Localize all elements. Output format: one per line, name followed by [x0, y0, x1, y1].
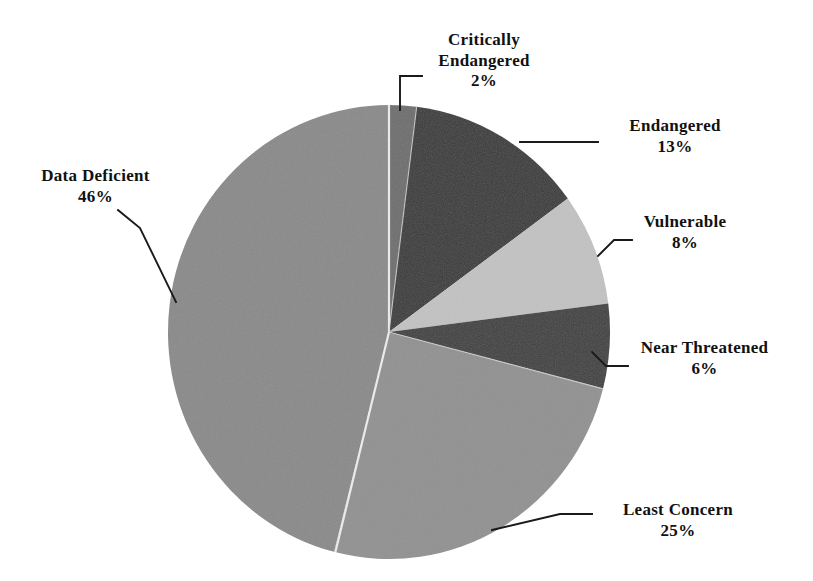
- slice-value-endangered: 13%: [600, 137, 750, 158]
- leader-line-data-deficient: [118, 210, 176, 302]
- slice-label-near-threatened: Near Threatened 6%: [612, 338, 797, 379]
- slice-value-critically-endangered: 2%: [404, 71, 564, 92]
- slice-label-endangered-name: Endangered: [600, 116, 750, 137]
- slice-label-vulnerable-name: Vulnerable: [620, 212, 750, 233]
- slice-value-data-deficient: 46%: [8, 187, 183, 208]
- slice-label-critically-endangered-line1: Critically: [404, 30, 564, 51]
- slice-label-critically-endangered: Critically Endangered 2%: [404, 30, 564, 92]
- slice-value-least-concern: 25%: [588, 521, 768, 542]
- slice-label-least-concern-name: Least Concern: [588, 500, 768, 521]
- slice-label-endangered: Endangered 13%: [600, 116, 750, 157]
- slice-value-vulnerable: 8%: [620, 233, 750, 254]
- slice-label-vulnerable: Vulnerable 8%: [620, 212, 750, 253]
- slice-label-data-deficient-name: Data Deficient: [8, 166, 183, 187]
- slice-label-critically-endangered-line2: Endangered: [404, 51, 564, 72]
- slice-label-data-deficient: Data Deficient 46%: [8, 166, 183, 207]
- pie-chart-figure: Critically Endangered 2% Endangered 13% …: [0, 0, 813, 581]
- slice-label-near-threatened-name: Near Threatened: [612, 338, 797, 359]
- slice-value-near-threatened: 6%: [612, 359, 797, 380]
- slice-label-least-concern: Least Concern 25%: [588, 500, 768, 541]
